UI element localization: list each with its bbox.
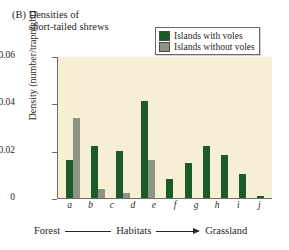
bar-a-series-1	[66, 160, 73, 198]
gradient-rule-left	[65, 231, 111, 232]
x-tick-label-a: a	[61, 200, 79, 214]
bar-c-series-2	[123, 193, 130, 198]
bar-group-e	[166, 57, 173, 198]
bar-group-d	[141, 57, 155, 198]
legend-item-with-voles: Islands with voles	[159, 30, 255, 41]
plot-area	[57, 57, 272, 199]
bar-group-b	[91, 57, 105, 198]
legend-label-with-voles: Islands with voles	[174, 31, 243, 41]
x-tick-label-j: j	[250, 200, 268, 214]
bar-group-a	[66, 57, 80, 198]
x-tick-label-b: b	[82, 200, 100, 214]
x-tick-label-i: i	[229, 200, 247, 214]
figure-panel-b: (B) Densities of short-tailed shrews Isl…	[0, 0, 289, 250]
chart-legend: Islands with voles Islands without voles	[155, 27, 260, 55]
x-tick-label-d: d	[124, 200, 142, 214]
x-tick-label-h: h	[208, 200, 226, 214]
bar-group-f	[185, 57, 192, 198]
x-tick-label-c: c	[103, 200, 121, 214]
y-tick-label: 0.04	[0, 97, 15, 107]
bar-a-series-2	[73, 118, 80, 198]
gradient-rule-right	[156, 231, 194, 232]
bar-d-series-1	[141, 101, 148, 198]
title-line-2: short-tailed shrews	[29, 21, 162, 33]
bar-g-series-1	[203, 146, 210, 198]
bar-e-series-1	[166, 179, 173, 198]
bar-i-series-1	[239, 174, 246, 198]
x-axis-ticks: abcdefghij	[57, 200, 272, 214]
legend-label-without-voles: Islands without voles	[174, 42, 255, 52]
bar-f-series-1	[185, 163, 192, 199]
bar-group-h	[221, 57, 228, 198]
bar-h-series-1	[221, 155, 228, 198]
bar-group-i	[239, 57, 246, 198]
bar-groups	[58, 57, 272, 198]
habitat-gradient-annotation: Forest Habitats Grassland	[34, 222, 274, 238]
y-axis-label: Density (number/trapnight)	[27, 0, 38, 146]
arrow-right-icon	[193, 228, 200, 234]
legend-swatch-icon-with-voles	[159, 31, 170, 41]
legend-swatch-icon-without-voles	[159, 42, 170, 52]
y-tick-label: 0	[0, 192, 15, 202]
x-tick-label-f: f	[166, 200, 184, 214]
x-tick-label-g: g	[187, 200, 205, 214]
y-tick-label: 0.06	[0, 50, 15, 60]
axis-label-grassland: Grassland	[205, 225, 247, 236]
x-tick-label-e: e	[145, 200, 163, 214]
y-tick-label: 0.02	[0, 145, 15, 155]
bar-j-series-1	[257, 196, 264, 198]
bar-group-g	[203, 57, 210, 198]
axis-label-habitats: Habitats	[116, 225, 151, 236]
bar-b-series-1	[91, 146, 98, 198]
bar-group-j	[257, 57, 264, 198]
bar-b-series-2	[98, 189, 105, 198]
bar-d-series-2	[148, 160, 155, 198]
bar-c-series-1	[116, 151, 123, 198]
bar-group-c	[116, 57, 130, 198]
axis-label-forest: Forest	[34, 225, 60, 236]
panel-label: (B)	[12, 9, 26, 20]
legend-item-without-voles: Islands without voles	[159, 41, 255, 52]
